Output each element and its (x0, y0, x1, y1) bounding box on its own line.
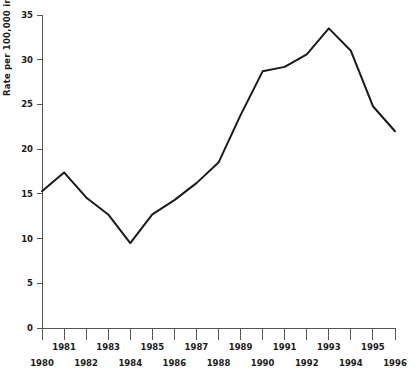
x-tick-label: 1993 (317, 342, 341, 352)
data-series-line (42, 28, 395, 243)
x-tick-label: 1987 (185, 342, 209, 352)
x-tick-label: 1983 (96, 342, 120, 352)
x-tick-label: 1982 (74, 358, 98, 368)
y-tick-label: 20 (21, 144, 33, 154)
y-tick-label: 30 (21, 55, 33, 65)
x-tick-label: 1984 (118, 358, 142, 368)
y-tick-label: 25 (21, 99, 33, 109)
x-tick-label: 1991 (273, 342, 297, 352)
y-axis-ticks: 05101520253035 (21, 10, 42, 333)
y-tick-label: 5 (27, 278, 33, 288)
x-tick-label: 1988 (207, 358, 231, 368)
y-tick-label: 10 (21, 234, 33, 244)
x-tick-label: 1996 (383, 358, 407, 368)
chart-container: Rate per 100,000 inhabitants 05101520253… (0, 0, 416, 375)
line-chart-plot: 05101520253035 1980198119821983198419851… (0, 0, 416, 375)
y-tick-label: 35 (21, 10, 33, 20)
x-tick-label: 1995 (361, 342, 385, 352)
x-tick-label: 1990 (251, 358, 275, 368)
x-tick-label: 1989 (229, 342, 253, 352)
x-tick-label: 1986 (163, 358, 187, 368)
x-tick-label: 1980 (30, 358, 54, 368)
x-tick-label: 1994 (339, 358, 363, 368)
x-tick-label: 1992 (295, 358, 319, 368)
x-tick-label: 1981 (52, 342, 76, 352)
y-tick-label: 15 (21, 189, 33, 199)
x-axis-ticks: 1980198119821983198419851986198719881989… (30, 328, 407, 368)
y-tick-label: 0 (27, 323, 33, 333)
x-tick-label: 1985 (140, 342, 164, 352)
